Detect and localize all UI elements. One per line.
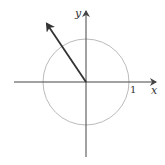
tick-label-one: 1 xyxy=(130,84,136,95)
unit-circle-diagram: y x 1 xyxy=(0,0,165,165)
x-axis-label: x xyxy=(151,84,158,97)
vector-arrow xyxy=(47,24,86,82)
y-axis-label: y xyxy=(74,7,82,20)
